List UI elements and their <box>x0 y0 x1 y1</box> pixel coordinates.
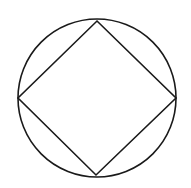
inscribed-square-diagram <box>0 0 191 188</box>
background <box>0 0 191 188</box>
